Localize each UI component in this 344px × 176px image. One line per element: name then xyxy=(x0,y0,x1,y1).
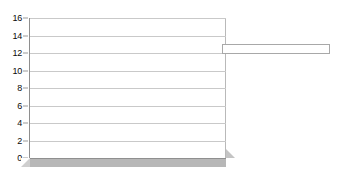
y-axis-tick-label: 10 xyxy=(12,66,22,75)
floor-right-wedge xyxy=(226,149,235,167)
y-axis-tick-mark xyxy=(23,88,28,89)
y-axis-tick-mark xyxy=(23,35,28,36)
y-axis-tick-mark xyxy=(23,123,28,124)
y-axis-tick-label: 12 xyxy=(12,49,22,58)
y-axis-tick-mark xyxy=(23,53,28,54)
y-axis-tick-mark xyxy=(23,70,28,71)
bar-chart: 0246810121416 xyxy=(0,0,344,176)
floor-side xyxy=(21,158,30,167)
y-axis-tick-mark xyxy=(23,140,28,141)
y-axis-tick-label: 4 xyxy=(17,119,22,128)
y-axis-tick-mark xyxy=(23,105,28,106)
y-axis-tick-label: 16 xyxy=(12,14,22,23)
floor-front xyxy=(30,158,226,167)
bar-series xyxy=(30,18,226,158)
y-axis-tick-mark xyxy=(23,18,28,19)
legend xyxy=(222,44,330,54)
y-axis-tick-label: 8 xyxy=(17,84,22,93)
y-axis-tick-label: 2 xyxy=(17,136,22,145)
y-axis-tick-label: 6 xyxy=(17,101,22,110)
y-axis: 0246810121416 xyxy=(0,0,30,176)
plot-area xyxy=(30,18,226,158)
y-axis-tick-label: 14 xyxy=(12,31,22,40)
